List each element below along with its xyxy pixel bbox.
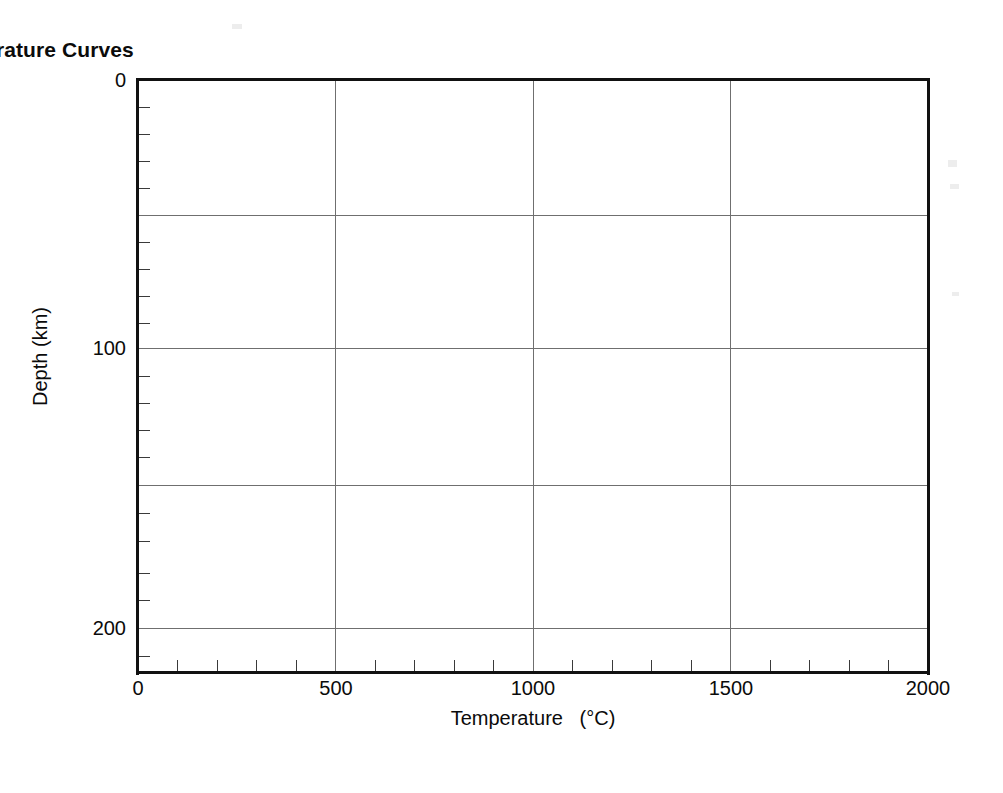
chart-figure: Temperature Curves Depth (km) 0 100 200 … bbox=[0, 0, 1003, 793]
y-tick-label-100: 100 bbox=[6, 338, 126, 358]
data-curve-layer bbox=[138, 80, 928, 672]
x-tick-label-2000: 2000 bbox=[858, 678, 998, 698]
chart-title: Temperature Curves bbox=[0, 38, 1003, 62]
x-tick-label-1000: 1000 bbox=[463, 678, 603, 698]
y-tick-label-0: 0 bbox=[6, 70, 126, 90]
scan-artifact bbox=[948, 160, 957, 167]
x-tick-label-1500: 1500 bbox=[661, 678, 801, 698]
axis-frame-top bbox=[136, 78, 930, 81]
axis-frame-right bbox=[927, 78, 930, 675]
scan-artifact bbox=[232, 24, 242, 29]
x-tick-label-0: 0 bbox=[68, 678, 208, 698]
axis-frame-bottom bbox=[136, 671, 930, 674]
x-tick-label-500: 500 bbox=[266, 678, 406, 698]
scan-artifact bbox=[952, 292, 959, 296]
scan-artifact bbox=[950, 184, 959, 189]
axis-frame-left bbox=[136, 78, 139, 675]
y-tick-label-200: 200 bbox=[6, 618, 126, 638]
x-axis-label: Temperature (°C) bbox=[138, 707, 928, 730]
chart-title-text: Temperature Curves bbox=[0, 38, 134, 61]
plot-area bbox=[138, 80, 928, 672]
